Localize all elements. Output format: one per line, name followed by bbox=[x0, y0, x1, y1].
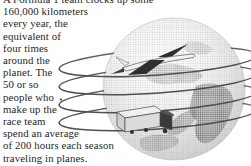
page: A Formula 1 team clocks up some 160,000 … bbox=[0, 0, 251, 166]
paragraph-line: planet. The bbox=[3, 66, 154, 78]
paragraph-line: make up the bbox=[3, 103, 154, 115]
paragraph-line: 160,000 kilometers bbox=[3, 5, 154, 17]
paragraph-line: people who bbox=[3, 91, 154, 103]
paragraph-line: around the bbox=[3, 54, 154, 66]
paragraph-line: spend an average bbox=[3, 127, 154, 139]
paragraph-line: traveling in planes. bbox=[3, 152, 154, 164]
paragraph-line: of 200 hours each season bbox=[3, 139, 154, 151]
paragraph-line: 50 or so bbox=[3, 78, 154, 90]
article-text: A Formula 1 team clocks up some 160,000 … bbox=[3, 0, 154, 164]
paragraph-line: four times bbox=[3, 42, 154, 54]
paragraph-line: equivalent of bbox=[3, 30, 154, 42]
paragraph-line: race team bbox=[3, 115, 154, 127]
paragraph-line: every year, the bbox=[3, 17, 154, 29]
